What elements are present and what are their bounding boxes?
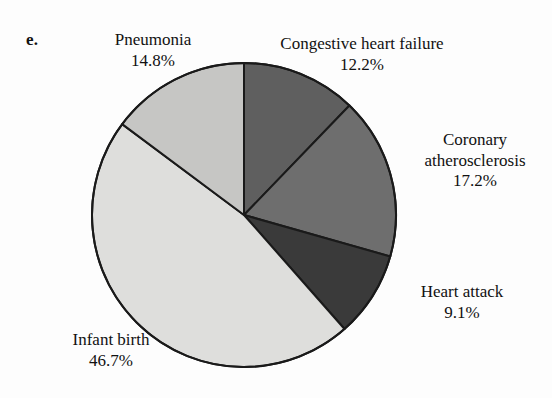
slice-label-congestive-heart-failure: Congestive heart failure 12.2% [252,34,472,75]
pie-slice-group [92,63,396,367]
slice-label-coronary-atherosclerosis-value: 17.2% [410,171,540,192]
slice-label-infant-birth: Infant birth 46.7% [36,330,186,371]
slice-label-congestive-heart-failure-name: Congestive heart failure [252,34,472,55]
pie-chart-figure: e. Pneumonia 14.8% Congestive heart fail… [0,0,552,398]
slice-label-congestive-heart-failure-value: 12.2% [252,55,472,76]
slice-label-infant-birth-value: 46.7% [36,351,186,372]
slice-label-heart-attack: Heart attack 9.1% [392,282,532,323]
slice-label-heart-attack-value: 9.1% [392,303,532,324]
slice-label-heart-attack-name: Heart attack [392,282,532,303]
slice-label-pneumonia-value: 14.8% [78,51,228,72]
slice-label-pneumonia-name: Pneumonia [78,30,228,51]
slice-label-coronary-atherosclerosis-name-line1: Coronary [410,130,540,151]
slice-label-infant-birth-name: Infant birth [36,330,186,351]
slice-label-pneumonia: Pneumonia 14.8% [78,30,228,71]
slice-label-coronary-atherosclerosis: Coronary atherosclerosis 17.2% [410,130,540,192]
slice-label-coronary-atherosclerosis-name-line2: atherosclerosis [410,151,540,172]
